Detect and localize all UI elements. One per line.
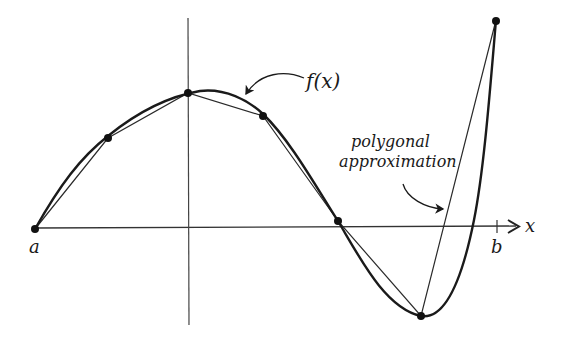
node-p3 (259, 112, 267, 120)
right-endpoint-label: b (491, 236, 503, 257)
node-p4 (334, 217, 342, 225)
left-endpoint-label: a (29, 236, 40, 257)
approximation-label-arrow (403, 184, 443, 209)
polygonal-approximation-diagram: f(x) polygonal approximation x a b (0, 0, 561, 342)
node-b-top (492, 17, 500, 25)
approximation-label-line2: approximation (339, 152, 457, 171)
x-axis-label: x (525, 215, 535, 236)
function-label: f(x) (304, 69, 340, 93)
node-p5 (417, 312, 425, 320)
node-p1 (104, 134, 112, 142)
node-p2 (184, 89, 192, 97)
function-label-arrow (246, 74, 304, 94)
approximation-label-line1: polygonal (351, 132, 430, 151)
node-a (31, 225, 39, 233)
y-axis (188, 18, 189, 325)
